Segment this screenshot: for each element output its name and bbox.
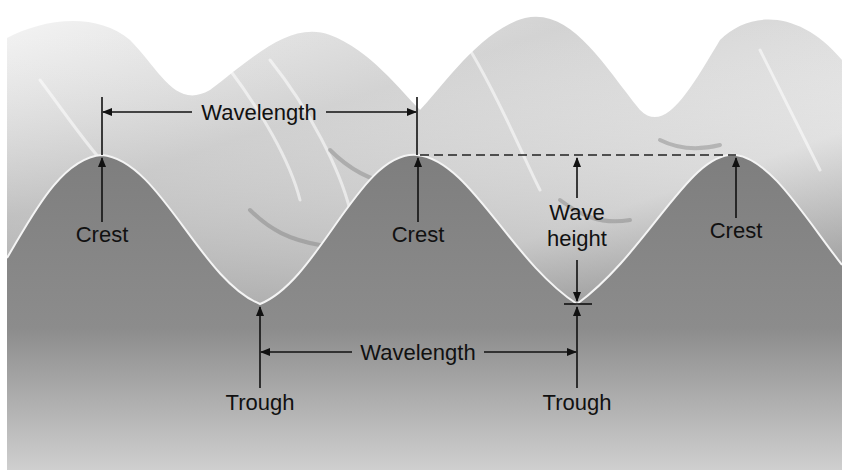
wave-height-label-line2: height bbox=[547, 226, 607, 251]
crest-1-label: Crest bbox=[76, 222, 129, 247]
sea-cross-section bbox=[7, 155, 842, 470]
trough-1-label: Trough bbox=[226, 390, 295, 415]
crest-2-label: Crest bbox=[392, 222, 445, 247]
wavelength-bottom-label: Wavelength bbox=[360, 340, 475, 365]
wavelength-top-label: Wavelength bbox=[201, 100, 316, 125]
left-margin bbox=[0, 0, 7, 470]
wave-diagram: Wavelength Crest Crest Crest Wave height… bbox=[0, 0, 842, 470]
trough-2-label: Trough bbox=[543, 390, 612, 415]
wave-height-label-line1: Wave bbox=[549, 200, 604, 225]
crest-3-label: Crest bbox=[710, 218, 763, 243]
